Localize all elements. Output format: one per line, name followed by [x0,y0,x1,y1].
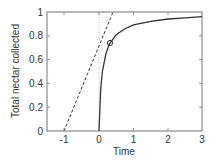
x-axis-label: Time [113,146,135,157]
y-tick-label: 0 [37,126,43,137]
plot-frame [47,12,202,131]
x-tick-label: 1 [131,134,137,145]
tangent-line [64,12,113,131]
x-tick-label: 3 [199,134,205,145]
y-tick-label: 0.8 [29,30,43,41]
gain-curve [99,17,202,131]
x-tick-label: 0 [96,134,102,145]
y-axis-ticks [47,36,202,107]
chart: -1 0 1 2 3 0 0.2 0.4 0.6 0.8 1 Time Tota… [0,0,214,163]
y-tick-label: 0.2 [29,102,43,113]
y-tick-label: 0.6 [29,54,43,65]
x-tick-label: 2 [165,134,171,145]
y-axis-label: Total nectar collected [10,24,21,118]
x-tick-label: -1 [60,134,69,145]
y-tick-label: 1 [37,7,43,18]
y-tick-label: 0.4 [29,78,43,89]
x-axis-ticks [64,12,168,131]
